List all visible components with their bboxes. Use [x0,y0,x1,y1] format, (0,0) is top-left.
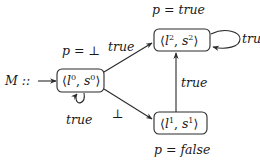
machine-label: M :: [4,73,30,88]
state-node-2-label: ⟨l2, s2⟩ [160,33,198,48]
state-node-1-prop-label: p = false [154,142,210,157]
state-node-2-self-loop [211,31,240,49]
edge-n0-n2-label: true [108,39,134,54]
state-node-2-prop-label: p = true [152,2,205,17]
state-machine-diagram: M :: ⟨l0, s0⟩ p = ⊥ true ⟨l2, s2⟩ p = tr… [0,0,260,160]
state-node-2-self-loop-label: true [242,31,260,46]
state-node-0-self-loop [76,93,84,103]
state-node-2[interactable]: ⟨l2, s2⟩ [154,29,210,51]
state-node-0-self-loop-label: true [66,112,92,127]
state-node-1[interactable]: ⟨l1, s1⟩ [154,112,207,134]
edge-n0-n1-label: ⊥ [112,106,124,121]
state-node-1-label: ⟨l1, s1⟩ [160,116,198,131]
edge-n1-n2-label: true [181,75,207,90]
state-node-0-label: ⟨l0, s0⟩ [62,73,100,88]
state-node-0-prop-label: p = ⊥ [62,43,100,58]
state-node-0[interactable]: ⟨l0, s0⟩ [57,69,104,92]
